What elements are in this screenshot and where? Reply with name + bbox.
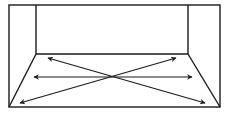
arrow-diagonal-1-icon [48, 58, 205, 103]
arrow-diagonal-2-icon [20, 58, 176, 103]
room-perspective-diagram [0, 0, 237, 114]
